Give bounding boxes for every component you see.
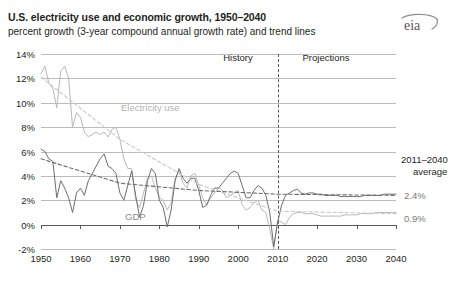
chart-title: U.S. electricity use and economic growth… bbox=[8, 11, 266, 23]
xtick-2040 bbox=[396, 225, 397, 229]
xtick-label-1960: 1960 bbox=[70, 253, 91, 264]
average-note-line1: 2011–2040 bbox=[401, 154, 448, 165]
gridline-minus2 bbox=[41, 249, 396, 250]
ytick-label-0: 0% bbox=[21, 219, 35, 230]
electricity-average-value: 0.9% bbox=[404, 213, 426, 224]
series-path-electricity-use-trend bbox=[41, 77, 396, 214]
series-label-electricity: Electricity use bbox=[121, 102, 180, 113]
xtick-label-2020: 2020 bbox=[307, 253, 328, 264]
xtick-label-1980: 1980 bbox=[149, 253, 170, 264]
ytick-label-2: 2% bbox=[21, 195, 35, 206]
ytick-label-12: 12% bbox=[16, 73, 35, 84]
ytick-label-8: 8% bbox=[21, 122, 35, 133]
xtick-label-2040: 2040 bbox=[385, 253, 406, 264]
series-path-gdp bbox=[41, 149, 396, 247]
ytick-label-4: 4% bbox=[21, 170, 35, 181]
ytick-label-14: 14% bbox=[16, 49, 35, 60]
chart-container: U.S. electricity use and economic growth… bbox=[0, 0, 457, 281]
xtick-label-2000: 2000 bbox=[228, 253, 249, 264]
plot-area: 14% 12% 10% 8% 6% 4% 2% 0% -2% 1950 1960… bbox=[41, 54, 396, 249]
xtick-label-1990: 1990 bbox=[188, 253, 209, 264]
gdp-average-value: 2.4% bbox=[404, 190, 426, 201]
xtick-label-1950: 1950 bbox=[30, 253, 51, 264]
xtick-label-2010: 2010 bbox=[267, 253, 288, 264]
series-path-electricity-use bbox=[41, 66, 396, 249]
series-path-gdp-trend bbox=[41, 159, 396, 196]
series-label-gdp: GDP bbox=[125, 211, 146, 222]
svg-text:eia: eia bbox=[404, 18, 421, 33]
ytick-label-10: 10% bbox=[16, 97, 35, 108]
ytick-label-6: 6% bbox=[21, 146, 35, 157]
xtick-label-1970: 1970 bbox=[109, 253, 130, 264]
eia-logo-icon: eia bbox=[396, 12, 442, 36]
chart-subtitle: percent growth (3-year compound annual g… bbox=[8, 26, 315, 37]
xtick-label-2030: 2030 bbox=[346, 253, 367, 264]
series-lines bbox=[41, 54, 396, 249]
average-note-line2: average bbox=[413, 166, 447, 177]
